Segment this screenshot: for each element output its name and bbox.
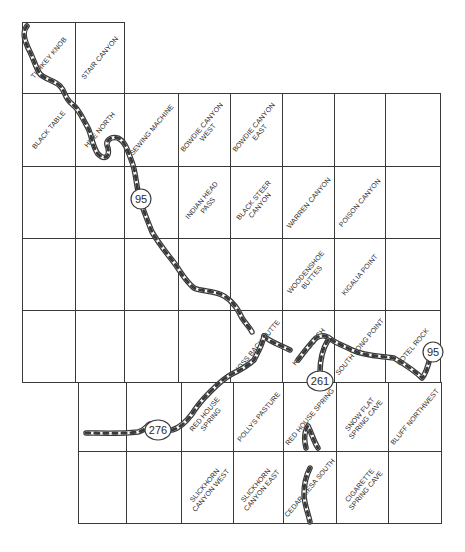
highway-shield-95: 95	[423, 342, 443, 362]
svg-text:95: 95	[427, 346, 439, 358]
highway-276	[86, 336, 264, 433]
highway-shield-95: 95	[131, 189, 151, 209]
svg-text:276: 276	[149, 424, 167, 436]
highway-shield-261: 261	[307, 371, 333, 391]
highway-shield-276: 276	[145, 420, 171, 440]
svg-text:261: 261	[311, 375, 329, 387]
svg-text:95: 95	[135, 193, 147, 205]
road-network: 9595261276	[0, 0, 465, 552]
highway-95-east	[264, 336, 430, 378]
